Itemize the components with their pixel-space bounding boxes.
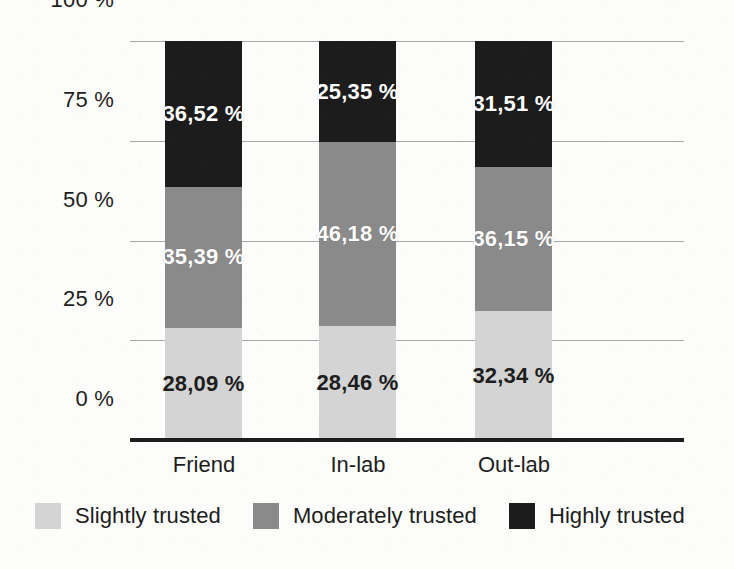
y-axis-tick-50: 50 % <box>63 187 114 213</box>
x-axis-tick-in-lab: In-lab <box>330 452 385 478</box>
y-axis-tick-75: 75 % <box>63 87 114 113</box>
legend-item-slightly-trusted[interactable]: Slightly trusted <box>35 503 253 529</box>
bar-segment-out-lab-moderately[interactable]: 36,15 % <box>475 167 552 311</box>
legend-item-highly-trusted[interactable]: Highly trusted <box>509 503 717 529</box>
bar-segment-out-lab-highly[interactable]: 31,51 % <box>475 41 552 167</box>
bar-value-label: 32,34 % <box>472 363 554 389</box>
bar-value-label: 25,35 % <box>316 79 398 105</box>
x-axis-baseline <box>130 438 684 442</box>
y-axis-tick-25: 25 % <box>63 286 114 312</box>
bar-segment-friend-highly[interactable]: 36,52 % <box>165 41 242 187</box>
bar-value-label: 35,39 % <box>162 244 244 270</box>
bar-value-label: 36,15 % <box>472 226 554 252</box>
y-axis-tick-0: 0 % <box>75 386 114 412</box>
bar-value-label: 28,09 % <box>162 371 244 397</box>
bar-value-label: 28,46 % <box>316 370 398 396</box>
legend-swatch-icon-moderately <box>253 503 279 529</box>
x-axis-tick-out-lab: Out-lab <box>478 452 550 478</box>
bar-segment-friend-slightly[interactable]: 28,09 % <box>165 328 242 440</box>
y-axis-tick-100: 100 % <box>51 0 114 13</box>
bar-in-lab[interactable]: 25,35 % 46,18 % 28,46 % <box>319 41 396 440</box>
bar-segment-in-lab-highly[interactable]: 25,35 % <box>319 41 396 142</box>
chart-figure: 100 % 75 % 50 % 25 % 0 % 36,52 % 35,39 %… <box>0 0 734 569</box>
x-axis-tick-friend: Friend <box>173 452 235 478</box>
bar-segment-friend-moderately[interactable]: 35,39 % <box>165 187 242 328</box>
legend-label-highly: Highly trusted <box>549 503 685 529</box>
legend-label-moderately: Moderately trusted <box>293 503 477 529</box>
plot-area: 36,52 % 35,39 % 28,09 % 25,35 % 46,18 % … <box>130 41 684 440</box>
bar-segment-in-lab-moderately[interactable]: 46,18 % <box>319 142 396 326</box>
bar-value-label: 31,51 % <box>472 91 554 117</box>
bar-segment-in-lab-slightly[interactable]: 28,46 % <box>319 326 396 440</box>
bar-friend[interactable]: 36,52 % 35,39 % 28,09 % <box>165 41 242 440</box>
bar-value-label: 36,52 % <box>162 101 244 127</box>
legend-swatch-icon-highly <box>509 503 535 529</box>
bar-value-label: 46,18 % <box>316 221 398 247</box>
legend-swatch-icon-slightly <box>35 503 61 529</box>
legend-item-moderately-trusted[interactable]: Moderately trusted <box>253 503 509 529</box>
y-axis: 100 % 75 % 50 % 25 % 0 % <box>0 0 114 569</box>
legend: Slightly trusted Moderately trusted High… <box>35 503 717 529</box>
bar-out-lab[interactable]: 31,51 % 36,15 % 32,34 % <box>475 41 552 440</box>
legend-label-slightly: Slightly trusted <box>75 503 221 529</box>
bar-segment-out-lab-slightly[interactable]: 32,34 % <box>475 311 552 440</box>
